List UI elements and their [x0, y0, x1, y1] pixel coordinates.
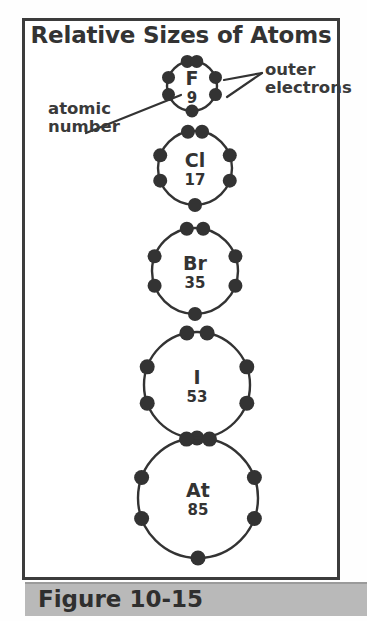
- electron-dot: [188, 198, 202, 212]
- electron-dot: [196, 222, 210, 236]
- electron-dot: [190, 55, 203, 68]
- atom-symbol-i: I: [193, 366, 200, 388]
- electron-dot: [153, 148, 167, 162]
- electron-dot: [191, 551, 206, 566]
- electron-dot: [247, 511, 262, 526]
- atomic-number-cl: 17: [185, 171, 206, 189]
- atom-symbol-br: Br: [183, 252, 207, 274]
- atom-group-f: F9: [162, 55, 222, 118]
- electron-dot: [239, 396, 254, 411]
- electron-dot: [202, 432, 217, 447]
- electron-dot: [200, 325, 215, 340]
- electron-dot: [179, 432, 194, 447]
- electron-dot: [179, 325, 194, 340]
- electron-dot: [247, 470, 262, 485]
- electron-dot: [181, 125, 195, 139]
- atomic-number-f: 9: [187, 89, 197, 107]
- electron-dot: [134, 470, 149, 485]
- electron-dot: [134, 511, 149, 526]
- figure-root: Relative Sizes of Atoms F9Cl17Br35I53At8…: [0, 0, 367, 621]
- atom-group-br: Br35: [148, 222, 243, 321]
- atomic-number-at: 85: [188, 501, 209, 519]
- atomic-number-br: 35: [185, 274, 206, 292]
- electron-dot: [223, 148, 237, 162]
- electron-dot: [228, 279, 242, 293]
- electron-dot: [148, 249, 162, 263]
- electron-dot: [140, 359, 155, 374]
- electron-dot: [153, 174, 167, 188]
- electron-dot: [195, 125, 209, 139]
- atomic-number-i: 53: [187, 388, 208, 406]
- atom-symbol-f: F: [186, 67, 199, 89]
- electron-dot: [148, 279, 162, 293]
- electron-dot: [180, 222, 194, 236]
- electron-dot: [162, 71, 175, 84]
- electron-dot: [209, 88, 222, 101]
- electron-dot: [223, 174, 237, 188]
- atomic-number-annotation: atomic number: [48, 100, 120, 136]
- atom-symbol-at: At: [186, 479, 210, 501]
- electron-dot: [228, 249, 242, 263]
- atom-group-i: I53: [140, 325, 255, 445]
- atom-symbol-cl: Cl: [185, 149, 205, 171]
- electron-dot: [140, 396, 155, 411]
- electron-dot: [188, 307, 202, 321]
- atom-group-cl: Cl17: [153, 125, 237, 212]
- figure-caption: Figure 10-15: [38, 586, 203, 612]
- electron-dot: [239, 359, 254, 374]
- outer-electrons-annotation: outer electrons: [265, 61, 352, 97]
- atom-group-at: At85: [134, 432, 262, 566]
- electron-dot: [209, 71, 222, 84]
